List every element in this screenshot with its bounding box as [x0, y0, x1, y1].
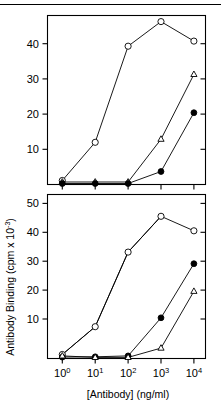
dose-response-figure: 40 30 20 10	[0, 0, 221, 414]
panel-bottom-ytick-40: 40	[27, 226, 39, 238]
panel-top-ytick-20: 20	[27, 108, 39, 120]
x-axis-title: [Antibody] (ng/ml)	[87, 388, 169, 400]
panel-top-series-open-triangle-markers	[59, 71, 197, 184]
panel-top-series-filled-circle-line	[62, 113, 194, 184]
panel-bottom-ytick-20: 20	[27, 284, 39, 296]
panel-bottom-ytick-10: 10	[27, 313, 39, 325]
panel-bottom-series-open-circle-line-2	[62, 216, 194, 354]
panel-bottom-series-open-circle-markers	[59, 213, 197, 357]
panel-bottom-series-open-circle-line	[62, 216, 161, 354]
panel-top-ytick-10: 10	[27, 143, 39, 155]
panel-top-frame	[48, 16, 206, 185]
panel-top-ytick-40: 40	[27, 38, 39, 50]
panel-bottom-ytick-30: 30	[27, 255, 39, 267]
panel-bottom-series-open-triangle-markers	[59, 288, 197, 360]
panel-bottom-xtick-labels: 100 101 102 103 104	[54, 366, 202, 379]
xtick-10-2: 102	[120, 366, 136, 379]
panel-top-ytick-30: 30	[27, 73, 39, 85]
panel-bottom-series-filled-circle-markers	[59, 261, 196, 360]
panel-top-series-open-circle-markers	[59, 19, 197, 184]
panel-bottom-ytick-50: 50	[27, 197, 39, 209]
panel-bottom-series-open-triangle-line	[62, 291, 194, 357]
xtick-10-1: 101	[87, 366, 103, 379]
panel-bottom: 50 40 30 20 10 100 101 102 103 104	[27, 195, 206, 380]
figure-container: 40 30 20 10	[0, 0, 221, 414]
panel-top: 40 30 20 10	[27, 16, 206, 190]
xtick-10-4: 104	[186, 366, 202, 379]
panel-top-series-open-triangle-line	[62, 74, 194, 182]
panel-top-series-filled-circle-markers	[59, 110, 196, 187]
panel-bottom-series-filled-circle-line	[62, 264, 194, 357]
y-axis-title: Antibody Binding (cpm x 10-3)	[4, 218, 16, 356]
xtick-10-3: 103	[153, 366, 169, 379]
panel-bottom-frame	[48, 195, 206, 359]
xtick-10-0: 100	[54, 366, 70, 379]
